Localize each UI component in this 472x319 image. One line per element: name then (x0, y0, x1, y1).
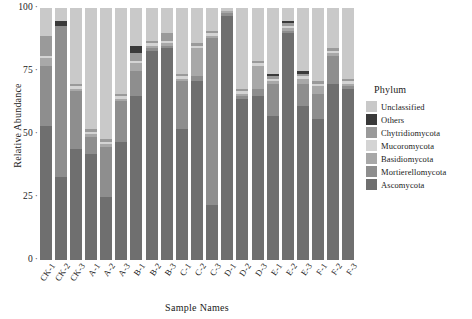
bar-segment-unclassified (115, 8, 127, 94)
bar-C-3[interactable] (206, 8, 218, 260)
bar-segment-unclassified (191, 8, 203, 43)
bar-CK-1[interactable] (40, 8, 52, 260)
legend-color-swatch (366, 166, 377, 177)
legend-item-others[interactable]: Others (366, 113, 472, 126)
legend-color-swatch (366, 114, 377, 125)
x-axis-tick-label: C-3 (207, 261, 223, 278)
bar-segment-ascomycota (40, 126, 52, 260)
x-axis-tick-label: E-2 (283, 261, 299, 277)
bar-segment-unclassified (85, 8, 97, 129)
bar-segment-mortierellomycota (40, 66, 52, 126)
bar-segment-basidiomycota (312, 86, 324, 94)
plot-area (38, 8, 356, 260)
bar-D-3[interactable] (252, 8, 264, 260)
x-axis-tick-label: C-2 (192, 261, 208, 278)
bar-segment-ascomycota (282, 33, 294, 260)
bar-segment-ascomycota (146, 51, 158, 260)
bar-D-2[interactable] (236, 8, 248, 260)
bar-A-1[interactable] (85, 8, 97, 260)
bar-F-3[interactable] (342, 8, 354, 260)
x-axis-tick-label: C-1 (177, 261, 193, 278)
bar-segment-chytridiomycota (130, 53, 142, 61)
bar-segment-mortierellomycota (206, 38, 218, 204)
legend-color-swatch (366, 153, 377, 164)
legend-item-ascomycota[interactable]: Ascomycota (366, 178, 472, 191)
bar-segment-ascomycota (176, 129, 188, 260)
legend-item-mortierellomycota[interactable]: Mortierellomycota (366, 165, 472, 178)
bar-segment-unclassified (100, 8, 112, 139)
legend-item-label: Mucoromycota (381, 141, 434, 151)
legend-title: Phylum (374, 84, 472, 95)
bar-E-1[interactable] (267, 8, 279, 260)
bar-B-1[interactable] (130, 8, 142, 260)
x-axis-tick-label: B-2 (147, 261, 163, 278)
bar-segment-ascomycota (312, 119, 324, 260)
bar-A-2[interactable] (100, 8, 112, 260)
bar-segment-mortierellomycota (130, 71, 142, 96)
legend-item-label: Mortierellomycota (381, 167, 446, 177)
bar-segment-ascomycota (130, 96, 142, 260)
bar-A-3[interactable] (115, 8, 127, 260)
legend-item-unclassified[interactable]: Unclassified (366, 100, 472, 113)
bar-segment-chytridiomycota (161, 33, 173, 41)
stacked-bar-chart-figure: 0·25·50·75·100· Relative Abundance CK-1C… (0, 0, 472, 319)
bar-CK-3[interactable] (70, 8, 82, 260)
legend-item-basidiomycota[interactable]: Basidiomycota (366, 152, 472, 165)
x-axis-tick-label: F-1 (314, 261, 329, 277)
bar-segment-unclassified (161, 8, 173, 33)
x-axis-tick-label: E-3 (299, 261, 315, 277)
bar-segment-ascomycota (70, 149, 82, 260)
bar-E-3[interactable] (297, 8, 309, 260)
bar-segment-ascomycota (115, 142, 127, 260)
bar-segment-mortierellomycota (70, 91, 82, 149)
bar-segment-unclassified (40, 8, 52, 36)
bar-E-2[interactable] (282, 8, 294, 260)
legend-color-swatch (366, 101, 377, 112)
bar-segment-unclassified (236, 8, 248, 89)
bar-segment-mortierellomycota (176, 81, 188, 129)
bar-segment-basidiomycota (40, 58, 52, 66)
x-axis-tick-label: A-3 (116, 261, 132, 278)
bar-segment-ascomycota (267, 116, 279, 260)
bar-segment-mortierellomycota (115, 101, 127, 141)
bar-D-1[interactable] (221, 8, 233, 260)
bar-segment-unclassified (267, 8, 279, 74)
legend-color-swatch (366, 179, 377, 190)
bar-C-1[interactable] (176, 8, 188, 260)
bar-segment-unclassified (282, 8, 294, 21)
bar-F-1[interactable] (312, 8, 324, 260)
legend-item-chytridiomycota[interactable]: Chytridiomycota (366, 126, 472, 139)
bar-segment-chytridiomycota (40, 36, 52, 56)
bar-F-2[interactable] (327, 8, 339, 260)
x-axis-title: Sample Names (38, 302, 356, 313)
x-axis-tick-label: F-2 (329, 261, 344, 277)
bar-CK-2[interactable] (55, 8, 67, 260)
bar-segment-mortierellomycota (252, 89, 264, 97)
legend-item-mucoromycota[interactable]: Mucoromycota (366, 139, 472, 152)
y-axis-tick-label: 100· (2, 3, 38, 13)
bar-segment-ascomycota (342, 89, 354, 260)
bar-segment-ascomycota (161, 48, 173, 260)
bar-segment-unclassified (130, 8, 142, 46)
bar-C-2[interactable] (191, 8, 203, 260)
bar-B-3[interactable] (161, 8, 173, 260)
bar-segment-unclassified (206, 8, 218, 31)
legend-color-swatch (366, 127, 377, 138)
bar-segment-ascomycota (85, 154, 97, 260)
x-axis-tick-label: B-3 (162, 261, 178, 278)
legend-item-label: Unclassified (381, 102, 425, 112)
bar-segment-ascomycota (221, 16, 233, 260)
x-axis-tick-label: CK-2 (52, 261, 71, 283)
x-axis-tick-label: CK-3 (68, 261, 87, 283)
x-axis-tick-label: A-2 (101, 261, 117, 278)
x-axis-tick-label: D-2 (237, 261, 253, 278)
bar-segment-mortierellomycota (100, 147, 112, 197)
x-axis-tick-label: F-3 (344, 261, 359, 277)
legend-color-swatch (366, 140, 377, 151)
x-axis-tick-label: D-1 (222, 261, 238, 278)
legend-item-label: Ascomycota (381, 180, 425, 190)
legend-entries: UnclassifiedOthersChytridiomycotaMucorom… (366, 100, 472, 191)
bar-segment-ascomycota (55, 177, 67, 260)
y-axis-tick-label: 0· (2, 255, 38, 265)
bar-B-2[interactable] (146, 8, 158, 260)
